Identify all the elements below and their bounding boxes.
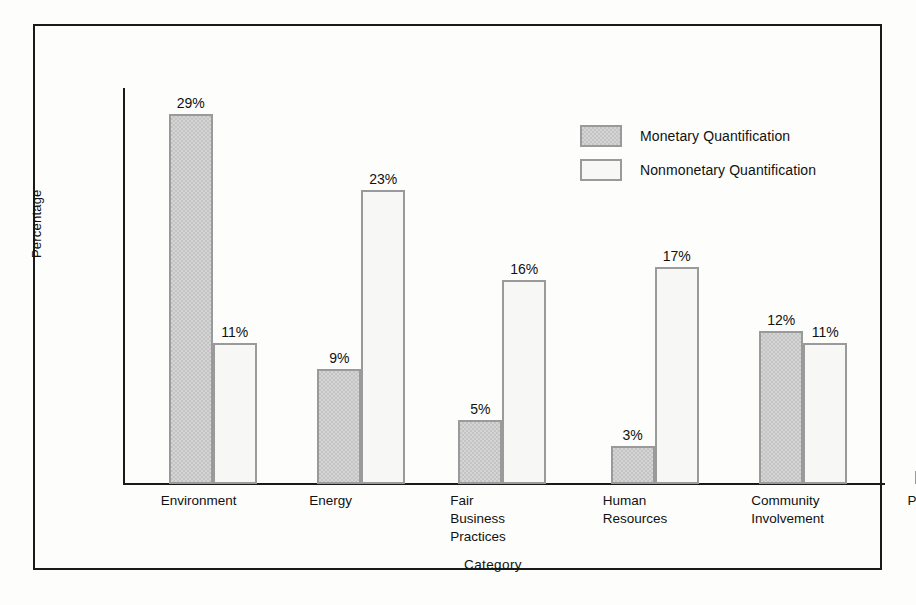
legend-swatch-monetary — [580, 125, 622, 147]
bar-rect — [458, 420, 502, 484]
bar-nonmonetary: 23% — [361, 172, 405, 484]
legend-label-nonmonetary: Nonmonetary Quantification — [640, 162, 816, 178]
legend-label-monetary: Monetary Quantification — [640, 128, 790, 144]
bar-rect — [759, 331, 803, 484]
bar-nonmonetary: 11% — [803, 325, 847, 484]
y-axis-title: Percentage — [29, 118, 44, 258]
legend-item-nonmonetary: Nonmonetary Quantification — [580, 156, 816, 184]
bar-rect — [655, 267, 699, 484]
bar-rect — [803, 343, 847, 484]
bar-value-label: 23% — [369, 172, 397, 186]
bar-value-label: 29% — [177, 96, 205, 110]
bar-nonmonetary: 16% — [502, 262, 546, 484]
bar-value-label: 12% — [767, 313, 795, 327]
legend-swatch-nonmonetary — [580, 159, 622, 181]
bar-value-label: 3% — [623, 428, 643, 442]
bar-monetary: 5% — [458, 402, 502, 484]
category-label: Environment — [161, 492, 237, 510]
bar-nonmonetary: 11% — [213, 325, 257, 484]
bar-group: 5%16% — [458, 88, 546, 484]
category-label: Human Resources — [603, 492, 668, 528]
bar-value-label: 16% — [510, 262, 538, 276]
bar-nonmonetary: 17% — [655, 249, 699, 484]
category-label: Energy — [309, 492, 352, 510]
category-label: Products — [907, 492, 916, 510]
category-label: Community Involvement — [751, 492, 824, 528]
bar-monetary: 3% — [611, 428, 655, 484]
bar-rect — [611, 446, 655, 484]
bar-value-label: 11% — [221, 325, 248, 339]
legend-item-monetary: Monetary Quantification — [580, 122, 816, 150]
bar-group: 29%11% — [169, 88, 257, 484]
bar-value-label: 5% — [470, 402, 490, 416]
bar-rect — [317, 369, 361, 484]
category-label: Fair Business Practices — [450, 492, 506, 545]
bar-rect — [213, 343, 257, 484]
bar-monetary: 29% — [169, 96, 213, 484]
bar-rect — [502, 280, 546, 484]
bar-rect — [361, 190, 405, 484]
figure-frame: Percentage 29%11%9%23%5%16%3%17%12%11%1%… — [33, 24, 882, 570]
bar-value-label: 9% — [329, 351, 349, 365]
x-axis-title: Category — [35, 557, 916, 572]
bar-monetary: 9% — [317, 351, 361, 484]
bar-rect — [169, 114, 213, 484]
bar-value-label: 17% — [663, 249, 691, 263]
chart-legend: Monetary Quantification Nonmonetary Quan… — [580, 122, 816, 190]
bar-monetary: 12% — [759, 313, 803, 484]
bar-value-label: 11% — [812, 325, 839, 339]
bar-group: 9%23% — [317, 88, 405, 484]
